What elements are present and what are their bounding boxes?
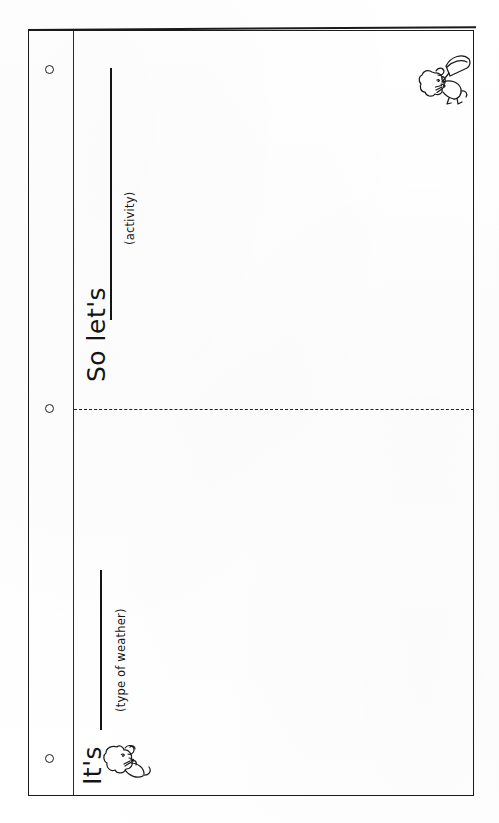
page-frame [28, 30, 474, 796]
mouse-with-umbrella-doodle [416, 46, 474, 106]
dashed-fold-line [74, 409, 474, 410]
hole-punch-middle [45, 404, 54, 413]
hole-punch-bottom [45, 754, 54, 763]
answer-blank-top[interactable] [110, 68, 112, 320]
hint-label-bottom: (type of weather) [114, 608, 128, 712]
answer-blank-bottom[interactable] [100, 570, 102, 730]
mouse-doodle [103, 737, 155, 785]
margin-rule-line [73, 31, 74, 795]
hole-punch-top [45, 65, 54, 74]
prompt-text-top: So let's [82, 287, 111, 382]
scanned-worksheet: So let's (activity) [0, 0, 499, 823]
hint-label-top: (activity) [123, 192, 137, 245]
